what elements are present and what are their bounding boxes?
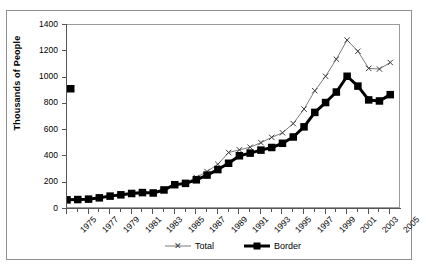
x-tick-mark-major [88, 209, 89, 214]
x-tick-mark-minor [271, 209, 272, 212]
x-tick-mark-major [217, 209, 218, 214]
x-tick-mark-minor [228, 209, 229, 212]
data-point [182, 180, 190, 188]
x-tick-mark-minor [141, 209, 142, 212]
data-point [128, 190, 135, 198]
data-point [269, 135, 274, 140]
data-point [258, 140, 263, 145]
x-tick-mark-major [195, 209, 196, 214]
data-point [203, 171, 211, 179]
data-point [67, 196, 71, 204]
data-point [225, 160, 233, 168]
data-point [311, 109, 319, 117]
x-tick-mark-major [260, 209, 261, 214]
data-point [149, 189, 157, 197]
data-point [323, 74, 328, 79]
legend-marker-total-icon: ✕ [165, 241, 191, 251]
x-tick-mark-major [174, 209, 175, 214]
y-tick-label: 1000 [14, 72, 58, 81]
x-tick-mark-minor [292, 209, 293, 212]
x-tick-mark-minor [120, 209, 121, 212]
data-point [279, 140, 287, 148]
series-markers-total [67, 37, 393, 203]
data-point [312, 88, 317, 93]
data-point [268, 144, 276, 152]
x-tick-mark-major [109, 209, 110, 214]
x-tick-mark-major [152, 209, 153, 214]
data-point [257, 146, 265, 154]
y-tick-label: 200 [14, 177, 58, 186]
x-tick-mark-minor [185, 209, 186, 212]
y-axis-line [66, 24, 67, 209]
data-point [74, 196, 82, 204]
data-point [386, 91, 394, 99]
x-tick-mark-minor [357, 209, 358, 212]
y-tick-label: 800 [14, 98, 58, 107]
x-axis-line [66, 208, 401, 209]
y-tick-label: 1200 [14, 46, 58, 55]
data-point [236, 152, 244, 160]
data-point [376, 97, 384, 105]
data-point [334, 56, 339, 61]
data-point [85, 195, 93, 203]
x-tick-mark-major [66, 209, 67, 214]
data-point [67, 85, 75, 93]
series-markers-border [67, 73, 394, 204]
x-tick-mark-major [346, 209, 347, 214]
data-point [117, 191, 125, 199]
data-point [96, 194, 104, 202]
series-line-border [67, 76, 390, 200]
x-tick-mark-minor [335, 209, 336, 212]
data-point [139, 189, 147, 197]
data-point [322, 99, 330, 107]
x-tick-mark-minor [249, 209, 250, 212]
data-point [355, 49, 360, 54]
data-point [193, 176, 201, 184]
data-point [214, 166, 222, 174]
x-tick-mark-major [281, 209, 282, 214]
data-point [301, 106, 306, 111]
x-tick-mark-minor [378, 209, 379, 212]
data-point [171, 181, 179, 189]
legend-label-border: Border [274, 241, 301, 251]
data-point [246, 149, 254, 157]
x-tick-mark-major [238, 209, 239, 214]
y-tick-label: 600 [14, 125, 58, 134]
series-canvas [67, 25, 401, 209]
data-point [343, 73, 351, 81]
chart-legend: ✕ Total Border [66, 238, 400, 254]
legend-marker-border-icon [244, 241, 270, 251]
x-tick-mark-major [368, 209, 369, 214]
y-tick-label: 1400 [14, 20, 58, 29]
x-tick-mark-minor [77, 209, 78, 212]
data-point [280, 130, 285, 135]
data-point [291, 121, 296, 126]
data-point [106, 192, 114, 200]
y-tick-label: 0 [14, 204, 58, 213]
data-point [365, 96, 373, 104]
x-tick-mark-major [303, 209, 304, 214]
x-tick-mark-major [131, 209, 132, 214]
data-point [344, 37, 349, 42]
data-point [160, 186, 168, 194]
y-tick-label: 400 [14, 151, 58, 160]
series-line-total [67, 40, 390, 201]
legend-item-total: ✕ Total [165, 241, 214, 251]
data-point [354, 82, 362, 90]
x-tick-mark-minor [206, 209, 207, 212]
data-point [333, 88, 341, 96]
legend-item-border: Border [244, 241, 301, 251]
x-tick-mark-minor [163, 209, 164, 212]
x-tick-mark-minor [314, 209, 315, 212]
legend-label-total: Total [195, 241, 214, 251]
x-tick-mark-minor [98, 209, 99, 212]
data-point [388, 60, 393, 65]
chart-screenshot: Thousands of People 02004006008001000120… [0, 0, 426, 280]
data-point [290, 133, 298, 141]
x-tick-mark-major [389, 209, 390, 214]
x-tick-mark-major [325, 209, 326, 214]
plot-area [66, 24, 400, 208]
data-point [300, 123, 308, 131]
